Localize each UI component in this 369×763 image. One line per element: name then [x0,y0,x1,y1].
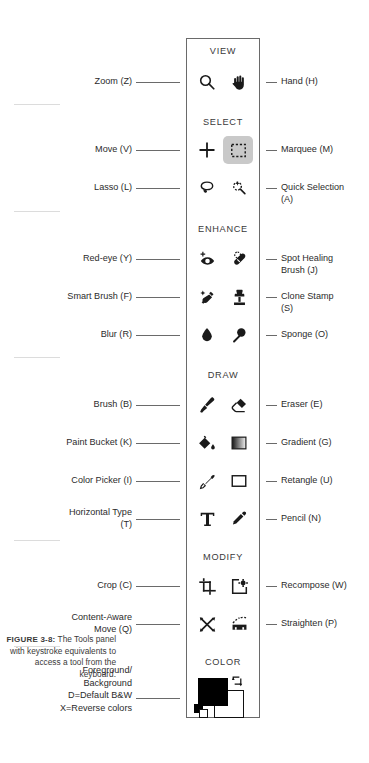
move-cross-icon[interactable] [192,136,222,164]
leader-color-swatch [136,698,180,699]
default-white-square [199,709,208,718]
smart-brush-icon[interactable] [192,283,222,311]
leader-hand [266,82,277,83]
leader-crop [136,586,180,587]
leader-straighten [266,624,277,625]
leader-lasso [136,188,180,189]
label-zoom: Zoom (Z) [60,76,132,88]
crop-icon[interactable] [192,572,222,600]
gradient-icon[interactable] [224,429,254,457]
divider-view-select [14,104,60,105]
brush-icon[interactable] [192,391,222,419]
blur-drop-icon[interactable] [192,321,222,349]
content-aware-move-icon[interactable] [192,610,222,638]
label-sponge: Sponge (O) [281,329,365,341]
leader-pencil [266,519,277,520]
spot-healing-brush-icon[interactable] [224,245,254,273]
leader-recompose [266,586,277,587]
leader-marquee [266,150,277,151]
label-crop: Crop (C) [60,580,132,592]
leader-clone-stamp [266,297,277,298]
section-title-color: COLOR [186,657,260,667]
leader-sponge [266,335,277,336]
type-icon[interactable] [192,505,222,533]
label-color-picker: Color Picker (I) [42,475,132,487]
figure-number: FIGURE 3-8: [7,635,56,644]
eraser-icon[interactable] [224,391,254,419]
leader-zoom [136,82,180,83]
section-title-select: SELECT [186,117,260,127]
label-lasso: Lasso (L) [60,182,132,194]
label-recompose: Recompose (W) [281,580,365,592]
leader-red-eye [136,259,180,260]
clone-stamp-icon[interactable] [224,283,254,311]
label-content-aware-move: Content-Aware Move (Q) [42,612,132,636]
label-quick-selection: Quick Selection (A) [281,182,365,206]
leader-quick-selection [266,188,277,189]
color-swatch-group[interactable] [194,678,252,722]
label-hand: Hand (H) [281,76,365,88]
sponge-icon[interactable] [224,321,254,349]
straighten-icon[interactable] [224,610,254,638]
marquee-icon[interactable] [223,136,253,164]
default-colors-icon[interactable] [194,704,209,719]
divider-select-enhance [14,211,60,212]
label-color-swatch: Foreground/ Background D=Default B&W X=R… [22,664,132,714]
label-horizontal-type: Horizontal Type (T) [42,507,132,531]
label-pencil: Pencil (N) [281,513,365,525]
label-spot-healing-brush: Spot Healing Brush (J) [281,253,365,277]
label-blur: Blur (R) [60,329,132,341]
leader-color-picker [136,481,180,482]
leader-content-aware-move [136,624,180,625]
label-smart-brush: Smart Brush (F) [42,291,132,303]
swap-colors-icon[interactable] [230,674,244,688]
label-straighten: Straighten (P) [281,618,365,630]
pencil-icon[interactable] [224,505,254,533]
leader-brush [136,405,180,406]
label-marquee: Marquee (M) [281,144,365,156]
label-gradient: Gradient (G) [281,437,365,449]
figure-container: FIGURE 3-8: The Tools panel with keystro… [0,0,369,763]
divider-enhance-draw [14,357,60,358]
leader-move [136,150,180,151]
quick-selection-icon[interactable] [224,174,254,202]
hand-icon[interactable] [224,68,254,96]
lasso-icon[interactable] [192,174,222,202]
leader-paint-bucket [136,443,180,444]
paint-bucket-icon[interactable] [192,429,222,457]
recompose-icon[interactable] [224,572,254,600]
label-red-eye: Red-eye (Y) [54,253,132,265]
label-paint-bucket: Paint Bucket (K) [40,437,132,449]
divider-draw-modify [14,540,60,541]
label-brush: Brush (B) [60,399,132,411]
label-move: Move (V) [60,144,132,156]
rectangle-icon[interactable] [224,467,254,495]
section-title-view: VIEW [186,46,260,56]
leader-eraser [266,405,277,406]
section-title-enhance: ENHANCE [186,224,260,234]
section-title-modify: MODIFY [186,552,260,562]
section-title-draw: DRAW [186,370,260,380]
divider-modify-color [14,646,60,647]
eyedropper-icon[interactable] [192,467,222,495]
foreground-color-swatch[interactable] [198,678,228,706]
leader-smart-brush [136,297,180,298]
magnifier-icon[interactable] [192,68,222,96]
label-clone-stamp: Clone Stamp (S) [281,291,365,315]
leader-gradient [266,443,277,444]
leader-blur [136,335,180,336]
label-rectangle: Retangle (U) [281,475,365,487]
label-eraser: Eraser (E) [281,399,365,411]
leader-rectangle [266,481,277,482]
leader-spot-healing [266,259,277,260]
red-eye-icon[interactable] [192,245,222,273]
leader-horizontal-type [136,519,180,520]
